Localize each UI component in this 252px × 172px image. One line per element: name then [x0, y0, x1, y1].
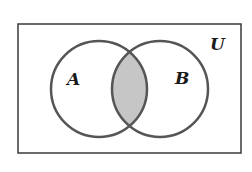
venn-diagram: A B U: [0, 0, 252, 172]
universe-label: U: [210, 34, 226, 54]
set-a-label: A: [65, 69, 80, 89]
set-b-label: B: [174, 68, 189, 88]
